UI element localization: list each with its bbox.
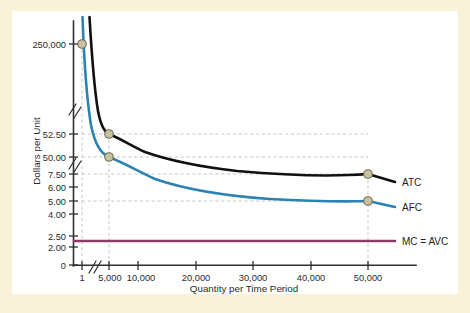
y-label-2-50: 2.50 (48, 232, 66, 242)
curve-label-afc: AFC (402, 202, 422, 213)
y-label-52-50: 52.50 (43, 130, 66, 140)
figure-frame: 250,000 52.50 50.00 7.50 6.00 5.00 4.00 … (0, 0, 470, 313)
y-label-4-00: 4.00 (48, 210, 66, 220)
x-label-50000: 50,000 (354, 273, 382, 283)
curve-label-mc-avc: MC = AVC (402, 236, 448, 247)
x-label-40000: 40,000 (297, 273, 325, 283)
y-axis-title: Dollars per Unit (31, 117, 42, 185)
marker-afc-5-00 (364, 197, 373, 206)
axes (74, 21, 417, 266)
x-label-5000: 5,000 (98, 273, 121, 283)
curve-label-atc: ATC (402, 177, 421, 188)
y-label-5-00: 5.00 (48, 197, 66, 207)
x-label-10000: 10,000 (127, 273, 155, 283)
plot-card: 250,000 52.50 50.00 7.50 6.00 5.00 4.00 … (12, 11, 458, 294)
x-axis-title: Quantity per Time Period (190, 283, 298, 294)
marker-atc-52-50 (105, 130, 114, 139)
y-label-7-50: 7.50 (48, 170, 66, 180)
x-label-30000: 30,000 (239, 273, 267, 283)
y-label-6-00: 6.00 (48, 183, 66, 193)
marker-afc-50-00 (105, 153, 114, 162)
y-label-2-00: 2.00 (48, 243, 66, 253)
cost-curves-chart: 250,000 52.50 50.00 7.50 6.00 5.00 4.00 … (12, 11, 458, 294)
y-axis-break-lower (69, 158, 81, 172)
y-axis-break-upper (69, 104, 81, 118)
x-axis-break (89, 261, 101, 273)
x-label-1: 1 (79, 273, 84, 283)
marker-afc-250000 (78, 40, 87, 49)
gridlines (82, 44, 368, 266)
data-markers (78, 40, 373, 206)
curve-afc (83, 17, 396, 207)
x-label-20000: 20,000 (182, 273, 210, 283)
marker-atc-7-50 (364, 170, 373, 179)
y-label-250000: 250,000 (32, 40, 66, 50)
curve-labels: ATC AFC MC = AVC (402, 177, 448, 247)
y-label-50-00: 50.00 (43, 153, 66, 163)
curves (74, 17, 395, 241)
y-label-0: 0 (61, 261, 66, 271)
x-tick-labels: 1 5,000 10,000 20,000 30,000 40,000 50,0… (79, 273, 382, 283)
